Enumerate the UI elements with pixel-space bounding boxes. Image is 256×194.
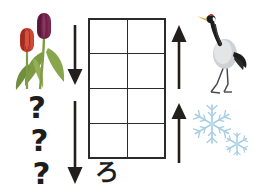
table-row [89,54,165,89]
table-row [89,89,165,124]
arrow-up-icon [168,24,190,90]
grid-cell[interactable] [89,54,127,89]
tulips-illustration [8,12,70,90]
arrow-down-icon [64,100,86,185]
empty-answer-grid[interactable] [88,18,166,159]
grid-cell[interactable] [127,19,165,54]
snowflakes-illustration [188,102,252,164]
question-mark-1: ? [28,92,46,122]
grid-cell[interactable] [127,54,165,89]
crane-illustration [194,10,252,96]
grid-table [88,18,166,159]
table-row [89,123,165,158]
grid-cell[interactable] [127,123,165,158]
kana-label: ろ [95,158,135,188]
worksheet-canvas: ? ? ? [0,0,256,194]
question-mark-2: ? [31,125,49,155]
grid-cell[interactable] [89,123,127,158]
question-marks-placeholder: ? ? ? [16,92,58,188]
arrow-up-icon [168,102,190,164]
arrow-down-icon [64,24,86,86]
table-row [89,19,165,54]
grid-cell[interactable] [127,89,165,124]
grid-cell[interactable] [89,89,127,124]
grid-cell[interactable] [89,19,127,54]
question-mark-3: ? [33,158,51,188]
